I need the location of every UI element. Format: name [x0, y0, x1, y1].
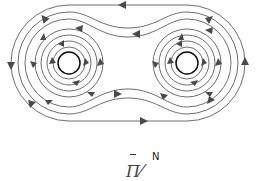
outer-direction-arrows: [7, 1, 249, 125]
outer-field-lines: [11, 5, 245, 121]
caption-letter-n: N: [152, 151, 159, 162]
left-wire: [58, 52, 80, 74]
caption-overline: [130, 154, 136, 155]
caption-glyph: Π⁄: [126, 162, 143, 181]
right-wire: [176, 52, 198, 74]
magnetic-field-diagram: [0, 0, 257, 181]
